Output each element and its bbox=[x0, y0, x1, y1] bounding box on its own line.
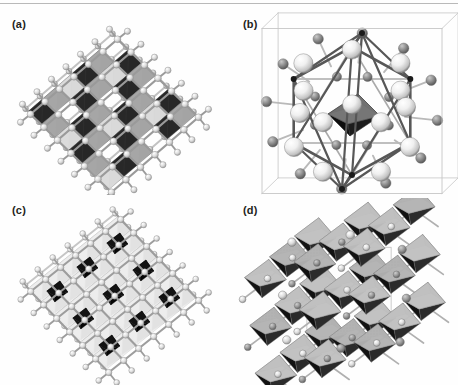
crystal-structure-figure: (a) (b) bbox=[0, 0, 458, 385]
panel-d-structure bbox=[229, 198, 458, 385]
panel-d: (d) bbox=[229, 198, 458, 385]
panel-a-structure bbox=[0, 8, 229, 195]
panel-a: (a) bbox=[0, 8, 229, 195]
panel-c: (c) bbox=[0, 198, 229, 385]
panel-b: (b) bbox=[229, 8, 458, 195]
panel-b-structure bbox=[229, 8, 458, 195]
top-divider-rule bbox=[0, 3, 458, 4]
panel-d-svg bbox=[229, 198, 458, 385]
panel-a-svg bbox=[0, 8, 229, 195]
panel-c-structure bbox=[0, 198, 229, 385]
panel-c-svg bbox=[0, 198, 229, 385]
panel-b-svg bbox=[229, 8, 458, 195]
